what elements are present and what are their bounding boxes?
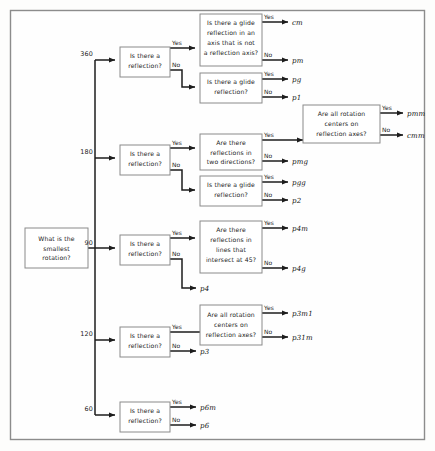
node-rot-centers-120-line-0: Are all rotation [207,311,255,318]
node-root-line-2: rotation? [42,254,70,261]
node-refl-60-line-1: reflection? [128,417,162,424]
result-p4: p4 [200,285,209,293]
node-glide-360-line-0: Is there a glide [207,78,255,86]
edge-label-refl120-yes: Yes [171,323,182,330]
edge-label-refl360-no: No [172,61,181,68]
result-p3m1: p3m1 [292,310,313,318]
result-pgg: pgg [292,179,306,187]
result-p1: p1 [292,94,301,102]
node-glide-not-refl-axis-line-3: a reflection axis? [204,49,258,56]
node-lines-45-line-0: Are there [216,226,246,233]
node-refl-360-line-0: Is there a [130,52,160,59]
node-refl-120-line-1: reflection? [128,342,162,349]
edge-label-refl60-yes: Yes [171,398,182,405]
edge-label-glide360-yes: Yes [263,70,274,77]
result-pm: pm [292,57,304,65]
node-root-line-0: What is the [38,235,75,242]
edge-label-refl180-no: No [172,161,181,168]
node-two-directions-line-1: reflections in [210,149,252,156]
node-two-directions-line-0: Are there [216,139,246,146]
edge-label-two-directions-yes: Yes [263,131,274,138]
angle-label-180: 180 [80,148,93,156]
edge-label-refl90-yes: Yes [171,229,182,236]
edge-label-rot-centers-180-yes: Yes [381,104,392,111]
node-glide-360-line-1: reflection? [214,88,248,95]
node-rot-centers-120-line-2: reflection axes? [206,331,256,338]
edge-label-refl360-yes: Yes [171,39,182,46]
edge-label-rot-centers-120-no: No [264,328,273,335]
edge-label-refl120-no: No [172,342,181,349]
flowchart-canvas: What is the smallest rotation? Is there … [0,0,435,451]
flowchart-svg: What is the smallest rotation? Is there … [0,0,435,451]
edge-label-refl180-yes: Yes [171,139,182,146]
node-rot-centers-180-line-0: Are all rotation [318,110,366,117]
node-glide-not-refl-axis-line-1: reflection in an [207,29,255,36]
edge-label-glide360-no: No [264,88,273,95]
edge-label-rot-centers-180-no: No [382,126,391,133]
node-lines-45-line-1: reflections in [210,236,252,243]
edge-label-lines45-no: No [264,259,273,266]
result-p2: p2 [292,197,302,205]
node-refl-180-line-0: Is there a [130,150,160,157]
result-p4m: p4m [292,225,308,233]
result-pg: pg [292,76,302,84]
edge-label-glide-not-axis-no: No [264,51,273,58]
edge-label-rot-centers-120-yes: Yes [263,304,274,311]
edge-label-glide180-no: No [264,191,273,198]
angle-label-60: 60 [84,405,93,413]
edge-label-lines45-yes: Yes [263,219,274,226]
node-glide-180-line-1: reflection? [214,191,248,198]
result-cm: cm [292,19,303,27]
angle-label-90: 90 [84,239,93,247]
node-refl-90-line-1: reflection? [128,250,162,257]
node-rot-centers-180-line-2: reflection axes? [316,130,366,137]
node-glide-180-line-0: Is there a glide [207,181,255,189]
edge-label-two-directions-no: No [264,152,273,159]
node-lines-45-line-3: intersect at 45? [206,256,256,263]
edge-label-refl60-no: No [172,416,181,423]
angle-label-360: 360 [80,50,93,58]
node-refl-360-line-1: reflection? [128,62,162,69]
node-glide-not-refl-axis-line-2: axis that is not [207,39,255,46]
edge-label-refl90-no: No [172,250,181,257]
node-root-line-1: smallest [43,245,70,252]
result-cmm: cmm [407,132,425,140]
result-p6m: p6m [200,404,216,412]
result-pmm: pmm [407,110,426,118]
result-p4g: p4g [292,265,306,273]
result-p31m: p31m [292,334,313,342]
edge-label-glide-not-axis-yes: Yes [263,13,274,20]
node-rot-centers-120-line-1: centers on [214,321,248,328]
node-refl-60-line-0: Is there a [130,407,160,414]
node-rot-centers-180-line-1: centers on [325,120,359,127]
node-two-directions-line-2: two directions? [207,158,255,165]
node-glide-not-refl-axis-line-0: Is there a glide [207,19,255,27]
result-pmg: pmg [292,158,309,166]
result-p3: p3 [200,348,210,356]
edge-label-glide180-yes: Yes [263,173,274,180]
angle-label-120: 120 [80,330,93,338]
node-refl-90-line-0: Is there a [130,240,160,247]
result-p6: p6 [200,422,210,430]
node-refl-180-line-1: reflection? [128,160,162,167]
node-lines-45-line-2: lines that [216,246,246,253]
node-refl-120-line-0: Is there a [130,332,160,339]
